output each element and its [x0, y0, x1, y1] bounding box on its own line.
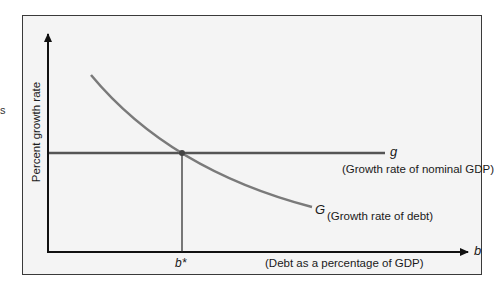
x-axis-symbol: b: [474, 243, 481, 258]
x-axis-label: (Debt as a percentage of GDP): [265, 257, 424, 269]
G-symbol: G: [315, 202, 325, 217]
chart-canvas: [0, 0, 503, 292]
g-symbol: g: [390, 144, 397, 159]
G-description: (Growth rate of debt): [327, 210, 433, 222]
b-star-tick-label: b*: [175, 256, 186, 270]
G-curve: [91, 75, 312, 207]
intersection-point: [179, 150, 185, 156]
g-description: (Growth rate of nominal GDP): [342, 163, 494, 175]
y-axis-label: Percent growth rate: [30, 82, 42, 182]
